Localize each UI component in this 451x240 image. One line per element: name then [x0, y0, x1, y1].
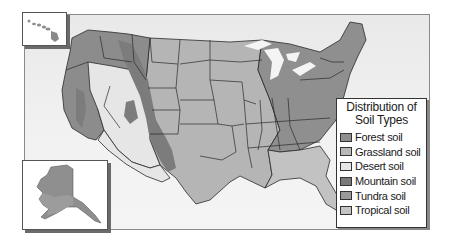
alaska-shape — [23, 161, 107, 229]
hawaii-inset — [22, 12, 67, 46]
legend-title: Distribution of Soil Types — [340, 101, 423, 127]
legend-label: Mountain soil — [355, 175, 416, 187]
alaska-inset — [22, 160, 108, 230]
legend-item-mountain: Mountain soil — [340, 174, 423, 189]
legend: Distribution of Soil Types Forest soil G… — [336, 98, 427, 228]
grassland-swatch — [340, 147, 352, 156]
legend-label: Tropical soil — [355, 204, 409, 216]
legend-title-line2: Soil Types — [340, 114, 423, 127]
legend-item-tropical: Tropical soil — [340, 203, 423, 218]
legend-label: Tundra soil — [355, 190, 406, 202]
legend-item-tundra: Tundra soil — [340, 188, 423, 203]
tropical-swatch — [340, 206, 352, 215]
forest-swatch — [340, 133, 352, 142]
legend-label: Desert soil — [355, 160, 404, 172]
legend-label: Grassland soil — [355, 146, 421, 158]
tundra-swatch — [340, 191, 352, 200]
legend-item-desert: Desert soil — [340, 159, 423, 174]
legend-item-forest: Forest soil — [340, 130, 423, 145]
region-tropical-southeast — [265, 146, 340, 210]
legend-label: Forest soil — [355, 131, 402, 143]
desert-swatch — [340, 162, 352, 171]
mountain-swatch — [340, 177, 352, 186]
legend-item-grassland: Grassland soil — [340, 145, 423, 160]
hawaii-islands — [23, 13, 66, 45]
